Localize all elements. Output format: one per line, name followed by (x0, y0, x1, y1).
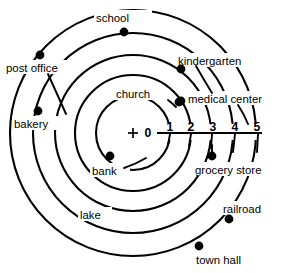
scale-label-2: 2 (188, 120, 195, 134)
label-school: school (96, 12, 129, 24)
label-church: church (116, 88, 150, 100)
dot-medical-center[interactable] (177, 97, 186, 106)
label-mask-group (4, 10, 280, 266)
scale-label-0: 0 (145, 126, 152, 140)
dot-bank[interactable] (106, 152, 115, 161)
dot-bakery[interactable] (34, 107, 43, 116)
label-grocery-store: grocery store (195, 164, 261, 176)
label-medical-center: medical center (188, 93, 262, 105)
label-lake: lake (80, 209, 101, 221)
label-railroad: railroad (223, 203, 261, 215)
dot-post-office[interactable] (36, 51, 45, 60)
scale-label-5: 5 (254, 120, 261, 134)
label-town-hall: town hall (196, 254, 241, 266)
concentric-distance-diagram: 0 1 2 3 4 5 (0, 0, 283, 273)
distance-map-figure: 0 1 2 3 4 5 (0, 0, 283, 273)
label-bakery: bakery (14, 118, 48, 130)
center-plus-icon (128, 128, 138, 138)
label-bank: bank (92, 165, 117, 177)
dot-town-hall[interactable] (195, 242, 204, 251)
leader-medical-center (238, 105, 248, 124)
leader-post-office (48, 74, 66, 114)
dot-school[interactable] (120, 28, 129, 37)
scale-label-4: 4 (232, 120, 239, 134)
scale-label-1: 1 (167, 120, 174, 134)
scale-label-3: 3 (210, 120, 217, 134)
dot-grocery-store[interactable] (208, 152, 217, 161)
tick-5 (257, 134, 258, 152)
label-kindergarten: kindergarten (178, 55, 241, 67)
label-post-office: post office (6, 62, 58, 74)
dot-railroad[interactable] (225, 215, 234, 224)
